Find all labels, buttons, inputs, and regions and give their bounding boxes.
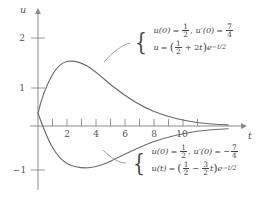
y-tick-label-minus1: −1 (11, 165, 28, 175)
upper-solution-eq: = (161, 43, 168, 51)
annotation-upper-line2: u = ( 1 2 + 2 t ) e −t/2 (154, 39, 234, 56)
lower-uprime0-minus: − (223, 147, 230, 155)
lower-uprime0-lhs: u′(0) (194, 147, 213, 155)
lower-solution-lhs: u(t) (152, 164, 167, 172)
lower-solution-minus: − (192, 164, 199, 172)
lower-solution-fraction-1: 1 2 (183, 161, 190, 177)
upper-solution-denominator: 2 (175, 47, 182, 55)
upper-u0-lhs: u(0) (154, 26, 171, 34)
upper-uprime0-lhs: u′(0) (196, 26, 215, 34)
upper-uprime0-fraction: 7 4 (226, 23, 233, 39)
x-tick-label-4: 4 (90, 129, 102, 139)
lower-exponent: −t/2 (222, 165, 236, 171)
lower-solution-numerator-2: 3 (202, 161, 209, 168)
lower-solution-denominator-1: 2 (183, 168, 190, 176)
lower-solution-numerator-1: 1 (183, 161, 190, 168)
lower-solution-fraction-2: 3 2 (202, 161, 209, 177)
curve-upper (38, 61, 228, 125)
upper-solution-numerator: 1 (175, 40, 182, 47)
lower-u0-denominator: 2 (180, 151, 187, 159)
upper-u0-denominator: 2 (182, 30, 189, 38)
annotation-lower: { u(0) = 1 2 , u′(0) = − 7 4 u(t) (131, 143, 239, 177)
upper-u0-numerator: 1 (182, 23, 189, 30)
upper-u0-fraction: 1 2 (182, 23, 189, 39)
lower-comma: , (188, 147, 191, 155)
upper-eq2: = (216, 26, 223, 34)
upper-comma: , (190, 26, 193, 34)
annotation-upper: { u(0) = 1 2 , u′(0) = 7 4 u = ( (133, 22, 234, 56)
lower-u0-fraction: 1 2 (180, 144, 187, 160)
leader-line-lower (103, 150, 126, 163)
brace-lower: { (133, 152, 145, 173)
lower-eq2: = (214, 147, 221, 155)
lower-solution-denominator-2: 2 (202, 168, 209, 176)
annotation-upper-line1: u(0) = 1 2 , u′(0) = 7 4 (154, 22, 234, 39)
x-tick-label-10: 10 (174, 129, 190, 139)
upper-solution-lhs: u (154, 43, 159, 51)
upper-solution-fraction: 1 2 (175, 40, 182, 56)
y-tick-label-2: 2 (16, 33, 28, 43)
figure-container: u t 2 1 −1 2 4 6 8 10 { u(0) = 1 2 , u′(… (0, 0, 266, 207)
lower-uprime0-fraction: 7 4 (231, 144, 238, 160)
lower-eq1: = (170, 147, 177, 155)
brace-upper: { (135, 31, 147, 52)
annotation-lower-line1: u(0) = 1 2 , u′(0) = − 7 4 (152, 143, 239, 160)
lower-uprime0-numerator: 7 (231, 144, 238, 151)
x-axis-ticks (53, 119, 198, 126)
upper-exponent: −t/2 (212, 44, 226, 50)
y-tick-label-1: 1 (16, 83, 28, 93)
lower-open-paren: ( (177, 163, 181, 174)
upper-open-paren: ( (170, 42, 174, 53)
x-tick-label-6: 6 (119, 129, 131, 139)
lower-u0-lhs: u(0) (152, 147, 169, 155)
upper-uprime0-denominator: 4 (226, 30, 233, 38)
annotation-lower-line2: u(t) = ( 1 2 − 3 2 t ) e −t/2 (152, 160, 239, 177)
lower-u0-numerator: 1 (180, 144, 187, 151)
leader-line-upper (104, 43, 130, 62)
lower-solution-eq: = (168, 164, 175, 172)
x-tick-label-2: 2 (61, 129, 73, 139)
lower-uprime0-denominator: 4 (231, 151, 238, 159)
upper-eq1: = (172, 26, 179, 34)
upper-plus-term: + 2 (185, 43, 200, 51)
y-axis-label: u (20, 4, 26, 15)
x-tick-label-8: 8 (148, 129, 160, 139)
x-axis-label: t (248, 130, 252, 141)
upper-uprime0-numerator: 7 (226, 23, 233, 30)
